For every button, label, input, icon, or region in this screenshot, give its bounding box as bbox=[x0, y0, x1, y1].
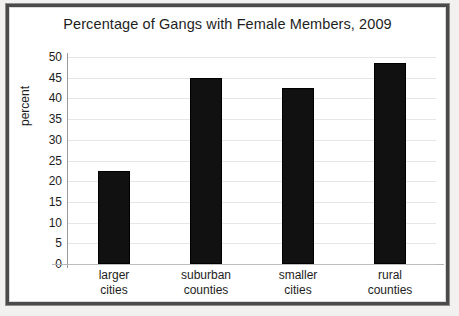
x-axis-label-rural-counties: ruralcounties bbox=[335, 268, 445, 298]
x-label-line: counties bbox=[335, 283, 445, 298]
y-tick-label-25: 25 bbox=[36, 155, 62, 167]
y-tick-label-30: 30 bbox=[36, 134, 62, 146]
y-axis-title: percent bbox=[18, 110, 32, 126]
gridline-0 bbox=[68, 264, 436, 265]
y-tick-label-40: 40 bbox=[36, 92, 62, 104]
bar-smaller-cities[interactable] bbox=[282, 88, 314, 264]
y-tick-label-50: 50 bbox=[36, 51, 62, 63]
bar-larger-cities[interactable] bbox=[98, 171, 130, 264]
gridline-50 bbox=[68, 57, 436, 58]
y-tick-label-45: 45 bbox=[36, 72, 62, 84]
bar-rural-counties[interactable] bbox=[374, 63, 406, 264]
chart-title: Percentage of Gangs with Female Members,… bbox=[10, 16, 445, 32]
x-axis-labels: largercitiessuburbancountiessmallercitie… bbox=[68, 268, 436, 308]
plot-area bbox=[68, 57, 436, 264]
y-axis-ticks: 50454035302520151050 bbox=[32, 57, 62, 264]
y-tick-label-10: 10 bbox=[36, 217, 62, 229]
figure-inner: Percentage of Gangs with Female Members,… bbox=[9, 7, 446, 302]
y-tick-label-20: 20 bbox=[36, 175, 62, 187]
page-background: Percentage of Gangs with Female Members,… bbox=[0, 0, 459, 316]
x-label-line: rural bbox=[335, 268, 445, 283]
bar-suburban-counties[interactable] bbox=[190, 78, 222, 264]
y-tick-label-15: 15 bbox=[36, 196, 62, 208]
y-tick-label-5: 5 bbox=[36, 237, 62, 249]
y-tick-label-35: 35 bbox=[36, 113, 62, 125]
figure-frame: Percentage of Gangs with Female Members,… bbox=[6, 4, 449, 305]
